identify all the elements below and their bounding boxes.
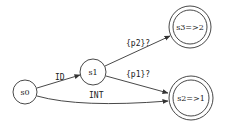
node-s1: s1 [80, 59, 106, 85]
node-s3-accepting: s3=>2 [169, 6, 211, 48]
node-label-s0: s0 [20, 88, 29, 97]
node-label-s2: s2=>1 [177, 94, 205, 103]
node-s2-accepting: s2=>1 [169, 76, 213, 120]
node-s0: s0 [13, 80, 37, 104]
edge-label-p1: {p1}? [126, 70, 150, 79]
edge-label-int: INT [89, 91, 104, 100]
edge-label-id: ID [55, 73, 65, 82]
node-label-s1: s1 [88, 68, 97, 77]
automaton-diagram: ID INT {p2}? {p1}? s0 s1 s3=>2 s2=>1 [0, 0, 231, 128]
edge-label-p2: {p2}? [126, 39, 150, 48]
node-label-s3: s3=>2 [176, 23, 204, 32]
